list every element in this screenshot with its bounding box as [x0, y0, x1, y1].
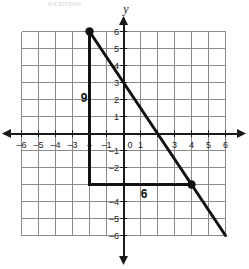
x-axis-arrow-left	[2, 129, 11, 138]
y-tick-label: –6	[109, 231, 119, 241]
y-tick-label: 5	[114, 44, 119, 54]
x-tick-label: 1	[138, 140, 143, 150]
y-axis-label: y	[122, 2, 129, 16]
point-upper-left	[85, 27, 93, 35]
x-axis-arrow-right	[237, 129, 246, 138]
rise-annotation-label: 9	[81, 91, 88, 105]
y-tick-label: 1	[114, 112, 119, 122]
x-tick-label: 5	[206, 140, 211, 150]
point-lower-right	[187, 180, 195, 188]
coordinate-plane-figure: example	[0, 0, 249, 269]
y-tick-label: –2	[109, 163, 119, 173]
y-tick-label: 6	[114, 27, 119, 37]
x-axis-tick-labels: –6 –5 –4 –3 – –1 0 1 3 4 5 6	[16, 140, 228, 150]
y-tick-label: 3	[114, 78, 119, 88]
y-tick-label: –4	[109, 197, 119, 207]
y-tick-label: –1	[109, 146, 119, 156]
x-tick-label: 0	[127, 140, 132, 150]
y-axis-arrow-down	[119, 256, 128, 265]
y-tick-label: 2	[114, 95, 119, 105]
x-tick-label: 6	[223, 140, 228, 150]
x-tick-label: –4	[50, 140, 60, 150]
x-tick-label: 3	[172, 140, 177, 150]
x-tick-label: –6	[16, 140, 26, 150]
x-tick-label: –3	[67, 140, 77, 150]
run-annotation-label: 6	[141, 187, 148, 201]
y-tick-label: –5	[109, 214, 119, 224]
y-axis-arrow-up	[119, 16, 128, 25]
x-tick-label: 4	[189, 140, 194, 150]
coordinate-plane-svg: –6 –5 –4 –3 – –1 0 1 3 4 5 6 6 5 4 3 2 1…	[0, 0, 249, 269]
x-tick-label: –5	[33, 140, 43, 150]
